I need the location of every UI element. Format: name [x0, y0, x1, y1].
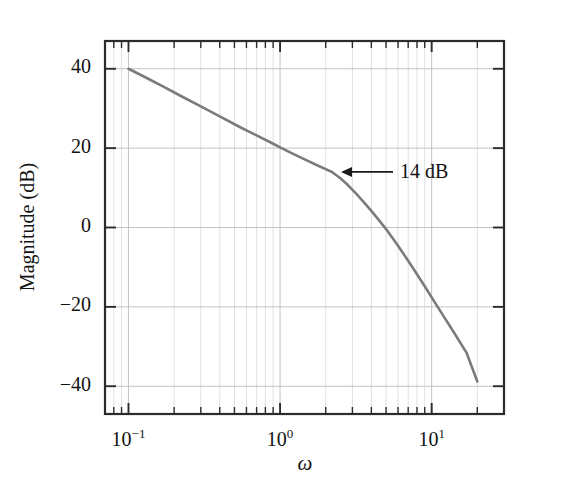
plot-canvas: 14 dB 40200−20−40 10−1100101 Magnitude (…	[0, 0, 577, 499]
y-tick-label: 0	[81, 214, 91, 236]
y-tick-label: 40	[71, 55, 91, 77]
y-tick-label: −40	[60, 373, 91, 395]
bode-magnitude-figure: 14 dB 40200−20−40 10−1100101 Magnitude (…	[0, 0, 577, 499]
y-tick-label: −20	[60, 293, 91, 315]
x-axis-title: ω	[298, 451, 313, 475]
y-axis-title: Magnitude (dB)	[16, 163, 39, 291]
y-tick-label: 20	[71, 135, 91, 157]
annotation-label-14db: 14 dB	[400, 160, 448, 182]
